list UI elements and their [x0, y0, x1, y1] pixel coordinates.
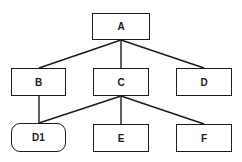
node-e-label: E — [118, 133, 125, 144]
node-a-label: A — [117, 21, 124, 32]
node-d-label: D — [200, 77, 207, 88]
node-f: F — [176, 124, 232, 152]
edge-c-d1 — [39, 96, 121, 123]
node-e: E — [93, 124, 149, 152]
node-a: A — [92, 13, 150, 40]
edge-a-b — [39, 40, 121, 68]
node-d1-label: D1 — [32, 132, 45, 143]
node-b: B — [11, 68, 66, 96]
node-f-label: F — [201, 133, 207, 144]
node-d1: D1 — [11, 123, 66, 152]
edge-c-f — [121, 96, 204, 124]
edge-a-d — [121, 40, 204, 68]
node-c: C — [93, 68, 149, 96]
node-d: D — [176, 68, 232, 96]
node-b-label: B — [35, 77, 42, 88]
node-c-label: C — [117, 77, 124, 88]
